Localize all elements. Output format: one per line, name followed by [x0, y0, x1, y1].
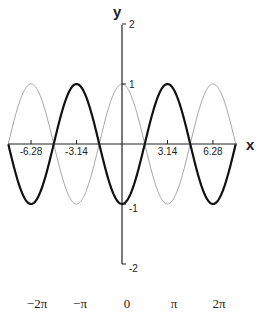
x-tick-label: 6.28: [203, 146, 223, 157]
x-tick-label: -6.28: [20, 146, 43, 157]
pi-label: −2π: [27, 296, 48, 311]
chart-canvas: -6.28-3.143.146.28 21-1-2 x y −2π−π0π2π: [0, 0, 262, 318]
y-tick-label: -1: [129, 203, 138, 214]
x-tick-label: 3.14: [158, 146, 178, 157]
pi-label: 2π: [212, 296, 226, 311]
y-ticks: 21-1-2: [122, 19, 138, 274]
pi-label: π: [171, 296, 178, 311]
x-axis-label: x: [246, 136, 255, 153]
y-tick-label: -2: [129, 263, 138, 274]
y-axis-label: y: [113, 3, 122, 20]
y-tick-label: 1: [129, 79, 135, 90]
pi-label: −π: [73, 296, 87, 311]
x-tick-label: -3.14: [65, 146, 88, 157]
pi-labels: −2π−π0π2π: [27, 296, 226, 311]
pi-label: 0: [124, 296, 131, 311]
y-tick-label: 2: [129, 19, 135, 30]
